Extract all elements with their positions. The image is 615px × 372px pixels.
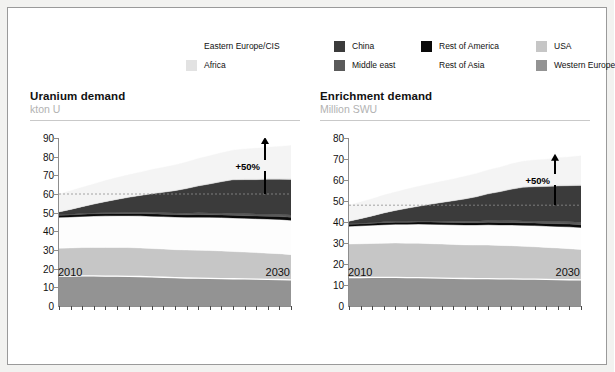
legend-label-rest-of-america: Rest of America [439,41,499,52]
x-tick-mark-2017 [430,306,431,310]
chart-title: Uranium demand [30,90,316,102]
y-tick-mark-50 [343,201,348,202]
chart-subtitle: kton U [30,103,316,115]
x-tick-mark-2020 [465,306,466,310]
x-label-start: 2010 [348,266,372,278]
legend-row-2: AfricaMiddle eastRest of AsiaWestern Eur… [186,57,604,74]
x-tick-mark-2011 [361,306,362,310]
x-tick-mark-2024 [221,306,222,310]
y-tick-mark-10 [343,285,348,286]
x-tick-mark-2015 [407,306,408,310]
legend-item-usa[interactable]: USA [536,38,571,55]
x-tick-mark-2028 [268,306,269,310]
x-tick-mark-2026 [535,306,536,310]
x-tick-mark-2022 [198,306,199,310]
legend-item-western-europe[interactable]: Western Europe [536,57,615,74]
x-tick-mark-2029 [569,306,570,310]
x-axis-labels: 2010 2030 [58,266,290,280]
annotation-plus-50: +50% [320,138,606,306]
y-tick-mark-10 [53,287,58,288]
legend-label-china: China [352,41,374,52]
y-tick-mark-50 [53,213,58,214]
x-tick-mark-2019 [163,306,164,310]
legend-item-africa[interactable]: Africa [186,57,226,74]
x-tick-mark-2010 [59,306,60,310]
y-tick-mark-30 [53,250,58,251]
x-tick-mark-2011 [71,306,72,310]
annotation-plus-50: +50% [30,138,316,306]
legend-label-western-europe: Western Europe [554,60,615,71]
chart-subtitle: Million SWU [320,103,606,115]
y-tick-mark-40 [53,231,58,232]
legend: Eastern Europe/CISChinaRest of AmericaUS… [186,36,604,78]
x-tick-mark-2023 [210,306,211,310]
y-tick-mark-70 [53,175,58,176]
legend-label-africa: Africa [204,60,226,71]
title-divider [30,120,300,121]
legend-label-middle-east: Middle east [352,60,395,71]
legend-swatch-china [334,41,345,52]
annotation-arrow-head [261,138,269,144]
legend-swatch-africa [186,60,197,71]
y-tick-mark-60 [343,180,348,181]
x-tick-mark-2013 [94,306,95,310]
chart-title: Enrichment demand [320,90,606,102]
title-divider [320,120,590,121]
x-tick-mark-2024 [511,306,512,310]
y-tick-mark-40 [343,222,348,223]
legend-item-middle-east[interactable]: Middle east [334,57,395,74]
chart-enrichment-demand: Enrichment demand Million SWU 0102030405… [320,90,606,358]
x-tick-mark-2027 [256,306,257,310]
x-tick-mark-2019 [453,306,454,310]
x-label-end: 2030 [556,266,580,278]
x-tick-mark-2030 [581,306,582,310]
legend-swatch-middle-east [334,60,345,71]
x-tick-mark-2022 [488,306,489,310]
legend-swatch-rest-of-asia [421,60,432,71]
legend-swatch-usa [536,41,547,52]
x-label-end: 2030 [266,266,290,278]
legend-label-rest-of-asia: Rest of Asia [439,60,484,71]
x-tick-mark-2016 [419,306,420,310]
y-tick-mark-80 [53,157,58,158]
legend-row-1: Eastern Europe/CISChinaRest of AmericaUS… [186,38,604,55]
x-tick-mark-2021 [477,306,478,310]
x-tick-mark-2025 [523,306,524,310]
x-tick-mark-2015 [117,306,118,310]
x-tick-mark-2014 [395,306,396,310]
legend-swatch-rest-of-america [421,41,432,52]
y-tick-mark-60 [53,194,58,195]
x-tick-mark-2021 [187,306,188,310]
y-tick-mark-80 [343,138,348,139]
x-axis-labels: 2010 2030 [348,266,580,280]
x-tick-mark-2029 [279,306,280,310]
legend-swatch-eastern-europe-cis [186,41,197,52]
annotation-arrow-head [551,154,559,161]
legend-item-eastern-europe-cis[interactable]: Eastern Europe/CIS [186,38,280,55]
y-tick-mark-20 [343,264,348,265]
plot-area-enrichment: 01020304050607080 +50% [320,138,606,328]
x-tick-mark-2013 [384,306,385,310]
legend-item-rest-of-america[interactable]: Rest of America [421,38,499,55]
legend-item-china[interactable]: China [334,38,374,55]
legend-swatch-western-europe [536,60,547,71]
legend-label-usa: USA [554,41,571,52]
x-tick-mark-2028 [558,306,559,310]
x-tick-mark-2026 [245,306,246,310]
legend-label-eastern-europe-cis: Eastern Europe/CIS [204,41,280,52]
legend-item-rest-of-asia[interactable]: Rest of Asia [421,57,484,74]
y-tick-mark-30 [343,243,348,244]
x-tick-mark-2030 [291,306,292,310]
x-tick-mark-2012 [82,306,83,310]
chart-panel: Eastern Europe/CISChinaRest of AmericaUS… [7,7,607,365]
x-tick-mark-2018 [442,306,443,310]
y-tick-mark-70 [343,159,348,160]
x-tick-mark-2023 [500,306,501,310]
x-tick-mark-2025 [233,306,234,310]
x-tick-mark-2014 [105,306,106,310]
plot-area-uranium: 0102030405060708090 +50% [30,138,316,328]
x-tick-mark-2027 [546,306,547,310]
x-tick-mark-2018 [152,306,153,310]
x-tick-mark-2012 [372,306,373,310]
